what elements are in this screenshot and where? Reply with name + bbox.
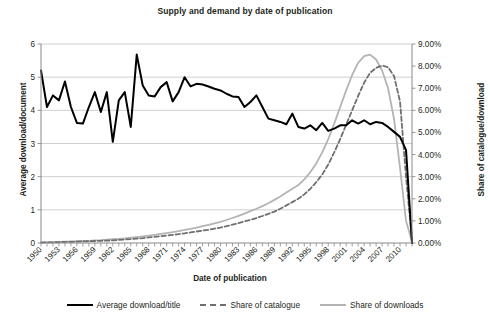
legend-item: Share of catalogue (200, 300, 300, 310)
svg-text:6.00%: 6.00% (418, 106, 441, 115)
svg-text:1995: 1995 (294, 245, 313, 264)
svg-text:3.00%: 3.00% (418, 173, 441, 182)
svg-text:4.00%: 4.00% (418, 151, 441, 160)
chart-title: Supply and demand by date of publication (0, 6, 490, 16)
svg-text:4: 4 (30, 106, 35, 115)
svg-text:0.00%: 0.00% (418, 239, 441, 248)
svg-text:2.00%: 2.00% (418, 195, 441, 204)
y-axis-right-ticks: 0.00%1.00%2.00%3.00%4.00%5.00%6.00%7.00%… (412, 40, 441, 248)
svg-text:1977: 1977 (187, 245, 206, 264)
plot-area: 0123456 0.00%1.00%2.00%3.00%4.00%5.00%6.… (0, 0, 490, 300)
svg-text:2007: 2007 (366, 245, 385, 264)
svg-text:6: 6 (30, 40, 35, 49)
chart-container: Supply and demand by date of publication… (0, 0, 490, 330)
svg-text:2010: 2010 (384, 245, 403, 264)
x-axis-title: Date of publication (150, 274, 310, 283)
y-axis-left-title: Average download/document (19, 55, 28, 225)
svg-text:1971: 1971 (151, 245, 170, 264)
svg-text:2: 2 (30, 173, 35, 182)
svg-text:1953: 1953 (43, 245, 62, 264)
chart-legend: Average download/title Share of catalogu… (0, 300, 490, 310)
legend-label: Average download/title (97, 300, 181, 310)
svg-text:5.00%: 5.00% (418, 128, 441, 137)
data-series-group (41, 55, 412, 243)
series-line (41, 55, 412, 243)
svg-text:2001: 2001 (330, 245, 349, 264)
svg-text:1998: 1998 (312, 245, 331, 264)
svg-text:2004: 2004 (348, 245, 367, 264)
legend-label: Share of catalogue (230, 300, 300, 310)
legend-swatch-share-of-catalogue (200, 304, 226, 306)
svg-text:1950: 1950 (25, 245, 44, 264)
series-line (41, 66, 412, 243)
x-axis-ticks: 1950195319561959196219651968197119741977… (25, 243, 412, 264)
svg-text:1959: 1959 (79, 245, 98, 264)
legend-label: Share of downloads (350, 300, 423, 310)
y-axis-right-title: Share of catalogue/download (477, 55, 486, 225)
svg-text:1980: 1980 (204, 245, 223, 264)
svg-text:1986: 1986 (240, 245, 259, 264)
svg-text:1968: 1968 (133, 245, 152, 264)
svg-text:1989: 1989 (258, 245, 277, 264)
svg-text:1992: 1992 (276, 245, 295, 264)
y-axis-left-ticks: 0123456 (30, 40, 41, 248)
svg-text:5: 5 (30, 73, 35, 82)
svg-text:3: 3 (30, 140, 35, 149)
legend-item: Share of downloads (320, 300, 423, 310)
svg-text:1965: 1965 (115, 245, 134, 264)
legend-item: Average download/title (67, 300, 181, 310)
svg-text:1974: 1974 (169, 245, 188, 264)
svg-text:9.00%: 9.00% (418, 40, 441, 49)
svg-text:1962: 1962 (97, 245, 116, 264)
legend-swatch-share-of-downloads (320, 304, 346, 306)
svg-text:1.00%: 1.00% (418, 217, 441, 226)
svg-text:8.00%: 8.00% (418, 62, 441, 71)
legend-swatch-average-download-title (67, 304, 93, 306)
svg-text:1: 1 (30, 206, 35, 215)
svg-text:1983: 1983 (222, 245, 241, 264)
series-line (41, 55, 412, 243)
svg-text:1956: 1956 (61, 245, 80, 264)
svg-text:7.00%: 7.00% (418, 84, 441, 93)
gridlines (41, 44, 412, 210)
